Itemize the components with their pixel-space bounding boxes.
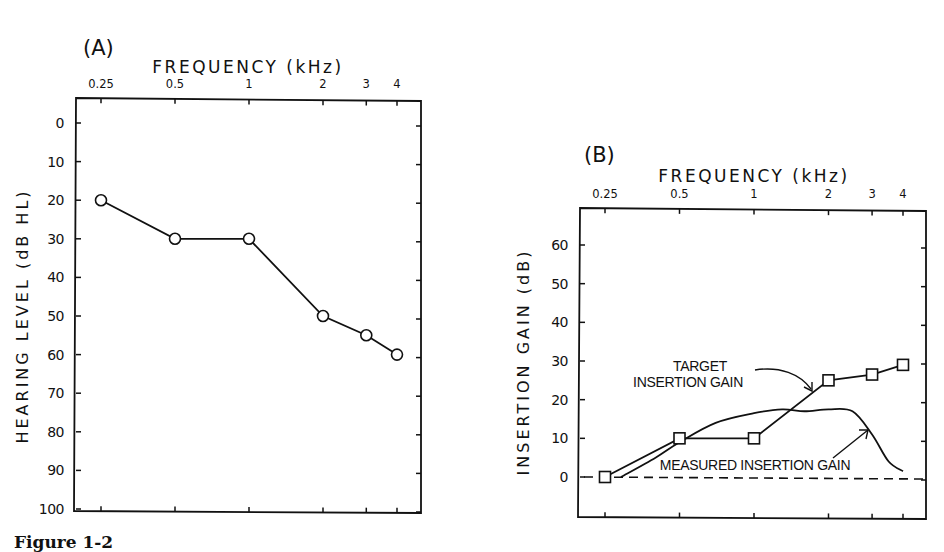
panel-b-x-tick-labels: 0.250.51234 <box>592 187 906 201</box>
y-tick-label: 20 <box>551 392 568 408</box>
panel-b-y-axis-title: INSERTION GAIN (dB) <box>514 249 533 476</box>
y-tick-label: 80 <box>47 424 64 440</box>
x-tick-label: 3 <box>868 187 875 201</box>
open-square-marker-icon <box>898 359 909 370</box>
zero-reference-dashed-line <box>584 477 924 479</box>
x-tick-label: 4 <box>899 187 906 201</box>
x-tick-label: 0.25 <box>592 187 618 201</box>
target-annotation-line2: INSERTION GAIN <box>633 374 743 390</box>
open-circle-marker-icon <box>318 311 329 322</box>
panel-a-series-hearing-level <box>96 195 403 360</box>
y-tick-label: 50 <box>47 308 64 324</box>
panel-a-x-tick-labels: 0.250.51234 <box>88 77 400 91</box>
open-circle-marker-icon <box>244 233 255 244</box>
y-tick-label: 30 <box>47 231 64 247</box>
y-tick-label: 60 <box>47 347 64 363</box>
y-tick-label: 60 <box>551 237 568 253</box>
open-square-marker-icon <box>749 433 760 444</box>
panel-b-insertion-gain: (B) FREQUENCY (kHz) 0.250.51234 01020304… <box>514 143 926 519</box>
panel-a-label: (A) <box>83 36 114 60</box>
y-tick-label: 40 <box>551 314 568 330</box>
panel-a-y-axis-title: HEARING LEVEL (dB HL) <box>13 188 32 443</box>
y-tick-label: 0 <box>560 469 568 485</box>
y-tick-label: 20 <box>47 192 64 208</box>
x-tick-label: 1 <box>750 187 757 201</box>
x-tick-label: 2 <box>319 77 326 91</box>
panel-b-y-tick-labels: 0102030405060 <box>551 237 568 485</box>
open-circle-marker-icon <box>170 233 181 244</box>
open-square-marker-icon <box>600 472 611 483</box>
y-tick-label: 90 <box>47 462 64 478</box>
x-tick-label: 0.5 <box>670 187 688 201</box>
y-tick-label: 10 <box>47 154 64 170</box>
panel-a-plot-frame <box>74 98 421 513</box>
measured-annotation-label: MEASURED INSERTION GAIN <box>660 457 850 473</box>
y-tick-label: 0 <box>56 115 64 131</box>
panel-a-hearing-audiogram: (A) FREQUENCY (kHz) 0.250.51234 01020304… <box>13 36 421 517</box>
panel-b-label: (B) <box>584 143 615 167</box>
open-square-marker-icon <box>823 375 834 386</box>
open-circle-marker-icon <box>96 195 107 206</box>
y-tick-label: 30 <box>551 353 568 369</box>
x-tick-label: 2 <box>825 187 832 201</box>
open-circle-marker-icon <box>361 330 372 341</box>
hearing-level-line <box>101 200 397 354</box>
y-tick-label: 50 <box>551 276 568 292</box>
open-circle-marker-icon <box>392 349 403 360</box>
measured-annotation-arrow-icon <box>833 430 868 458</box>
figure-caption: Figure 1-2 <box>14 532 113 552</box>
target-annotation-arrow-icon <box>755 369 811 389</box>
y-tick-label: 70 <box>47 385 64 401</box>
target-insertion-gain-annotation: TARGET INSERTION GAIN <box>633 358 812 391</box>
x-tick-label: 4 <box>393 77 400 91</box>
y-tick-label: 10 <box>551 430 568 446</box>
panel-a-y-tick-labels: 0102030405060708090100 <box>39 115 64 517</box>
open-square-marker-icon <box>674 433 685 444</box>
open-square-marker-icon <box>867 369 878 380</box>
panel-b-x-axis-title: FREQUENCY (kHz) <box>658 166 849 186</box>
panel-a-x-axis-title: FREQUENCY (kHz) <box>152 57 343 77</box>
target-annotation-line1: TARGET <box>673 358 728 374</box>
y-tick-label: 40 <box>47 269 64 285</box>
y-tick-label: 100 <box>39 501 64 517</box>
x-tick-label: 1 <box>245 77 252 91</box>
x-tick-label: 0.25 <box>88 77 114 91</box>
panel-a-tick-marks <box>76 98 421 513</box>
x-tick-label: 0.5 <box>166 77 184 91</box>
x-tick-label: 3 <box>363 77 370 91</box>
